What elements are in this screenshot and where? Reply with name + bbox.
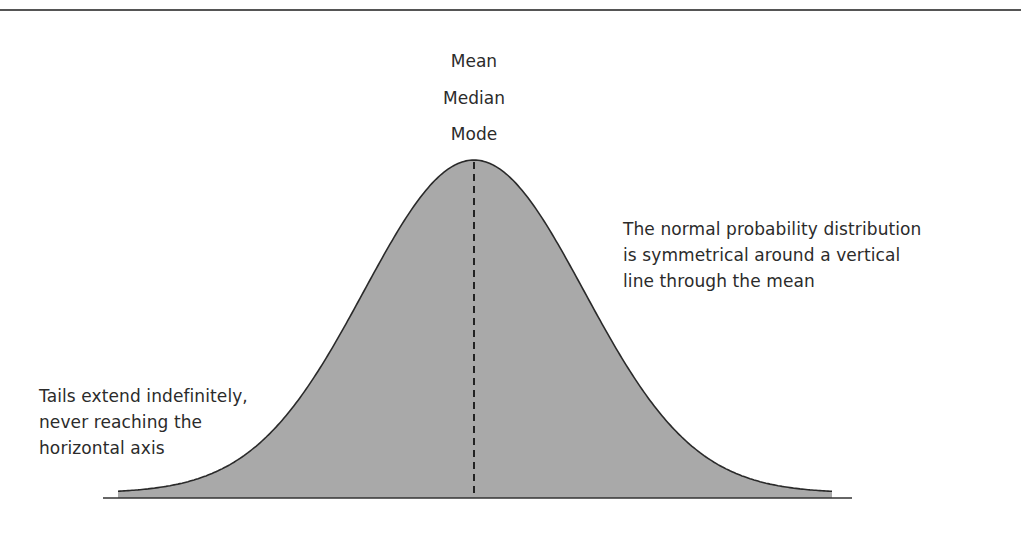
annotation-line: line through the mean [623,268,983,294]
annotation-line: The normal probability distribution [623,216,983,242]
mean-label: Mean [424,51,524,71]
median-label: Median [424,88,524,108]
annotation-line: never reaching the [39,409,319,435]
tails-annotation: Tails extend indefinitely, never reachin… [39,383,319,461]
annotation-line: horizontal axis [39,435,319,461]
symmetry-annotation: The normal probability distribution is s… [623,216,983,294]
annotation-line: is symmetrical around a vertical [623,242,983,268]
annotation-line: Tails extend indefinitely, [39,383,319,409]
mode-label: Mode [424,124,524,144]
